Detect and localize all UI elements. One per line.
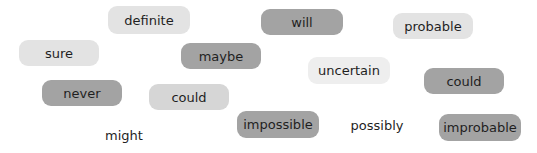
word-probable: probable <box>393 13 473 39</box>
word-possibly: possibly <box>350 114 404 136</box>
word-might: might <box>103 124 145 146</box>
word-could-light: could <box>149 84 229 110</box>
word-could-dark: could <box>424 68 504 94</box>
word-improbable: improbable <box>439 114 521 141</box>
word-sure: sure <box>19 40 99 66</box>
word-will: will <box>261 9 343 35</box>
word-definite: definite <box>108 6 190 34</box>
word-never: never <box>42 80 122 106</box>
word-maybe: maybe <box>181 43 261 69</box>
word-impossible: impossible <box>237 111 319 138</box>
word-uncertain: uncertain <box>308 57 390 84</box>
